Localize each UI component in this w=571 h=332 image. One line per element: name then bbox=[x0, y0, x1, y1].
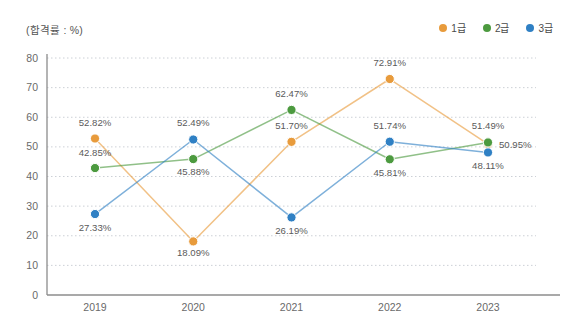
data-point-label: 52.49% bbox=[177, 117, 210, 128]
x-axis-tick-label: 2021 bbox=[280, 301, 304, 313]
data-point-marker[interactable] bbox=[287, 137, 296, 146]
data-point-marker[interactable] bbox=[189, 154, 198, 163]
data-point-marker[interactable] bbox=[385, 74, 394, 83]
data-point-marker[interactable] bbox=[385, 155, 394, 164]
data-point-marker[interactable] bbox=[189, 135, 198, 144]
data-point-label: 48.11% bbox=[472, 160, 504, 171]
data-point-label: 18.09% bbox=[177, 247, 210, 258]
data-point-marker[interactable] bbox=[385, 137, 394, 146]
data-point-label: 51.49% bbox=[472, 120, 505, 131]
data-point-label: 72.91% bbox=[373, 57, 406, 68]
line-chart: (합격률 : %) 1급 2급 3급 010203040506070802019… bbox=[0, 0, 571, 332]
data-point-label: 26.19% bbox=[275, 225, 308, 236]
data-point-marker[interactable] bbox=[90, 134, 99, 143]
data-point-label: 45.81% bbox=[373, 167, 406, 178]
data-point-label: 50.95% bbox=[499, 139, 532, 150]
y-axis-tick-label: 70 bbox=[26, 81, 38, 93]
data-point-label: 42.85% bbox=[79, 147, 112, 158]
y-axis-tick-label: 40 bbox=[26, 170, 38, 182]
data-point-label: 62.47% bbox=[275, 88, 308, 99]
data-point-marker[interactable] bbox=[90, 209, 99, 218]
y-axis-tick-label: 0 bbox=[32, 289, 38, 301]
y-axis-tick-label: 80 bbox=[26, 52, 38, 64]
data-point-label: 51.74% bbox=[373, 120, 406, 131]
y-axis-tick-label: 60 bbox=[26, 111, 38, 123]
data-point-label: 45.88% bbox=[177, 166, 210, 177]
data-point-label: 27.33% bbox=[79, 222, 112, 233]
plot-area: 010203040506070802019202020212022202352.… bbox=[0, 0, 571, 332]
y-axis-tick-label: 10 bbox=[26, 259, 38, 271]
data-point-marker[interactable] bbox=[483, 138, 492, 147]
data-point-label: 52.82% bbox=[79, 117, 112, 128]
data-point-marker[interactable] bbox=[483, 148, 492, 157]
y-axis-tick-label: 30 bbox=[26, 200, 38, 212]
data-point-marker[interactable] bbox=[189, 237, 198, 246]
data-point-marker[interactable] bbox=[90, 163, 99, 172]
data-point-marker[interactable] bbox=[287, 105, 296, 114]
y-axis-tick-label: 20 bbox=[26, 229, 38, 241]
data-point-label: 51.70% bbox=[275, 120, 308, 131]
x-axis-tick-label: 2019 bbox=[83, 301, 107, 313]
data-point-marker[interactable] bbox=[287, 213, 296, 222]
x-axis-tick-label: 2020 bbox=[182, 301, 206, 313]
y-axis-tick-label: 50 bbox=[26, 140, 38, 152]
x-axis-tick-label: 2022 bbox=[378, 301, 402, 313]
x-axis-tick-label: 2023 bbox=[476, 301, 500, 313]
